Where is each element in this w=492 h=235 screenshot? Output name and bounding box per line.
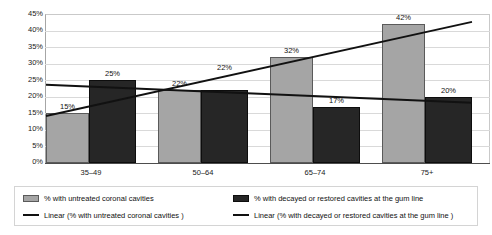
chart-screenshot: 45% 40% 35% 30% 25% 20% 15% 10% 5% 0% <box>0 0 492 235</box>
legend-item-untreated-bar[interactable]: % with untreated coronal cavities <box>23 191 154 205</box>
legend-line-icon <box>233 214 249 216</box>
trendline-gumline <box>46 85 472 103</box>
legend-item-gumline-bar[interactable]: % with decayed or restored cavities at t… <box>233 191 423 205</box>
legend-item-gumline-trendline[interactable]: Linear (% with decayed or restored cavit… <box>233 208 453 222</box>
chart-legend: % with untreated coronal cavities Linear… <box>14 186 478 226</box>
data-label-gumline-75plus: 20% <box>425 86 472 95</box>
data-label-gumline-35-49: 25% <box>89 69 136 78</box>
legend-label: % with untreated coronal cavities <box>44 194 154 203</box>
x-axis-tick-label-75plus: 75+ <box>382 168 472 177</box>
legend-line-icon <box>23 214 39 216</box>
data-label-untreated-50-64: 22% <box>158 79 201 88</box>
trendlines <box>0 0 492 178</box>
data-label-untreated-35-49: 15% <box>46 102 89 111</box>
x-axis-tick-label-35-49: 35–49 <box>46 168 136 177</box>
data-label-untreated-75plus: 42% <box>382 13 425 22</box>
legend-label: Linear (% with decayed or restored cavit… <box>254 211 453 220</box>
data-label-gumline-50-64: 22% <box>201 63 248 72</box>
data-label-gumline-65-74: 17% <box>313 96 360 105</box>
legend-label: % with decayed or restored cavities at t… <box>254 194 423 203</box>
chart-plot-area: 45% 40% 35% 30% 25% 20% 15% 10% 5% 0% <box>0 0 492 178</box>
legend-item-untreated-trendline[interactable]: Linear (% with untreated coronal cavitie… <box>23 208 184 222</box>
data-label-untreated-65-74: 32% <box>270 46 313 55</box>
legend-swatch-light-icon <box>23 195 39 202</box>
x-axis-tick-label-50-64: 50–64 <box>158 168 248 177</box>
legend-swatch-dark-icon <box>233 195 249 202</box>
x-axis-tick-label-65-74: 65–74 <box>270 168 360 177</box>
legend-label: Linear (% with untreated coronal cavitie… <box>44 211 184 220</box>
